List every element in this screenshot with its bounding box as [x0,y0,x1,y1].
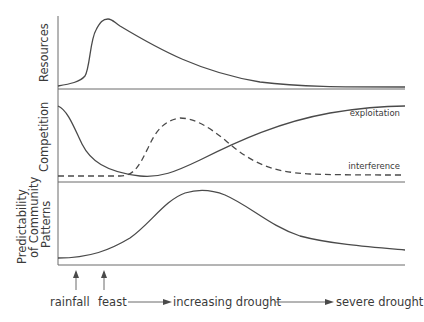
resources-label: Resources [37,23,51,82]
right-arrowhead-icon-2 [325,299,334,305]
feast-arrowhead-icon [101,270,107,278]
rainfall-label: rainfall [50,295,90,309]
resources-curve [58,19,405,87]
predictability-curve [58,190,405,258]
diagram-canvas: Resources Competition exploitation inter… [0,0,424,322]
exploitation-annotation: exploitation [350,108,400,118]
right-arrowhead-icon [163,299,172,305]
competition-label: Competition [37,102,51,172]
rainfall-arrowhead-icon [73,270,79,278]
increasing-drought-label: increasing drought [173,295,282,309]
interference-annotation: interference [348,161,400,171]
feast-label: feast [98,295,127,309]
severe-drought-label: severe drought [336,295,424,309]
predictability-label-line3: Patterns [39,201,53,248]
